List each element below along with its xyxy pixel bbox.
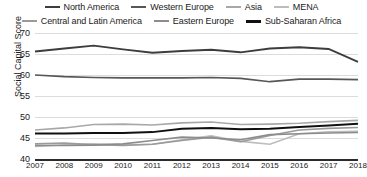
series-lines [35, 33, 358, 159]
series-line-central-and-latin-america [35, 128, 358, 146]
legend-row-secondary: Central and Latin AmericaEastern EuropeS… [0, 14, 363, 28]
legend-item-sub-saharan-africa[interactable]: Sub-Saharan Africa [246, 17, 341, 26]
series-line-north-america [35, 46, 358, 62]
y-axis-tick-45: 45 [20, 134, 30, 143]
legend-label: MENA [293, 3, 319, 12]
legend-item-north-america[interactable]: North America [45, 3, 120, 12]
x-axis-tick-2018: 2018 [349, 161, 367, 170]
legend-label: Eastern Europe [173, 17, 234, 26]
y-axis-tick-50: 50 [20, 113, 30, 122]
legend-swatch-icon [246, 20, 261, 23]
x-axis-tick-2010: 2010 [114, 161, 132, 170]
chart-legend: North AmericaWestern EuropeAsiaMENA Cent… [0, 0, 363, 28]
x-axis-tick-2017: 2017 [320, 161, 338, 170]
x-axis-tick-2011: 2011 [144, 161, 161, 170]
legend-swatch-icon [154, 20, 169, 22]
legend-item-eastern-europe[interactable]: Eastern Europe [154, 17, 234, 26]
legend-item-western-europe[interactable]: Western Europe [131, 3, 213, 12]
legend-item-mena[interactable]: MENA [274, 3, 319, 12]
x-axis-tick-2016: 2016 [290, 161, 308, 170]
legend-swatch-icon [274, 6, 289, 8]
legend-swatch-icon [131, 6, 146, 8]
legend-label: North America [64, 3, 120, 12]
legend-row-primary: North AmericaWestern EuropeAsiaMENA [0, 0, 363, 14]
legend-swatch-icon [45, 6, 60, 8]
x-axis-tick-2015: 2015 [261, 161, 279, 170]
legend-label: Sub-Saharan Africa [265, 17, 341, 26]
series-line-western-europe [35, 75, 358, 82]
x-axis-tick-2009: 2009 [85, 161, 103, 170]
x-axis-tick-2012: 2012 [173, 161, 191, 170]
x-axis-tick-2007: 2007 [26, 161, 44, 170]
legend-item-asia[interactable]: Asia [226, 3, 262, 12]
x-axis-tick-2013: 2013 [202, 161, 220, 170]
legend-swatch-icon [226, 6, 241, 8]
y-axis-tick-70: 70 [20, 29, 30, 38]
y-axis-tick-55: 55 [20, 92, 30, 101]
legend-label: Western Europe [150, 3, 213, 12]
legend-swatch-icon [22, 20, 37, 22]
x-axis-tick-2008: 2008 [55, 161, 73, 170]
y-axis-tick-65: 65 [20, 50, 30, 59]
legend-label: Central and Latin America [41, 17, 142, 26]
plot-area [35, 33, 358, 159]
legend-label: Asia [245, 3, 262, 12]
y-axis-tick-labels: 40455055606570 [0, 33, 33, 159]
y-axis-tick-60: 60 [20, 71, 30, 80]
legend-item-central-and-latin-america[interactable]: Central and Latin America [22, 17, 142, 26]
x-axis-tick-labels: 2007200820092010201120122013201420152016… [35, 161, 358, 177]
x-axis-tick-2014: 2014 [232, 161, 250, 170]
